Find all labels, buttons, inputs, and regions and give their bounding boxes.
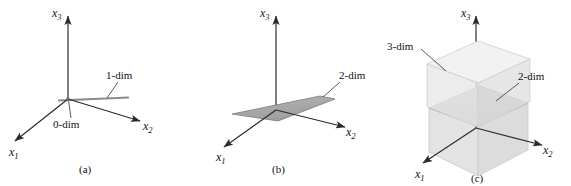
one-dim-label: 1-dim: [106, 69, 133, 81]
panel-c-diagram: x3 x2 x1 3-dim 2-dim (c): [370, 0, 571, 186]
panel-c-caption: (c): [471, 172, 484, 185]
panel-c: x3 x2 x1 3-dim 2-dim (c): [370, 0, 571, 186]
two-dim-label: 2-dim: [339, 69, 366, 81]
panel-a-diagram: x3 x2 x1 0-dim 1-dim (a): [0, 0, 190, 186]
axis-x2-label: x2: [542, 143, 553, 159]
panel-a-caption: (a): [79, 163, 92, 176]
panel-b: x3 x2 x1 2-dim (b): [180, 0, 380, 186]
axis-x2-label: x2: [345, 125, 356, 141]
two-dim-leader: [323, 82, 340, 97]
panel-b-diagram: x3 x2 x1 2-dim (b): [180, 0, 380, 186]
two-dim-plane: [232, 96, 335, 121]
three-dim-label: 3-dim: [387, 40, 414, 52]
axis-x2-label: x2: [142, 119, 153, 135]
axis-x3-label: x3: [259, 6, 270, 22]
one-dim-leader: [107, 82, 118, 98]
dimension-illustration-figure: x3 x2 x1 0-dim 1-dim (a): [0, 0, 571, 186]
axis-x3-label: x3: [51, 6, 62, 22]
origin-point: [66, 97, 69, 100]
zero-dim-label: 0-dim: [53, 118, 80, 130]
axis-x3-label: x3: [460, 6, 471, 22]
axis-x1-label: x1: [414, 167, 425, 183]
panel-a: x3 x2 x1 0-dim 1-dim (a): [0, 0, 190, 186]
zero-dim-leader: [69, 100, 72, 118]
two-dim-label: 2-dim: [518, 70, 545, 82]
axis-x1-label: x1: [215, 150, 226, 166]
axis-x2-line: [276, 110, 345, 127]
panel-b-caption: (b): [272, 163, 285, 176]
axis-x1-label: x1: [8, 145, 19, 161]
